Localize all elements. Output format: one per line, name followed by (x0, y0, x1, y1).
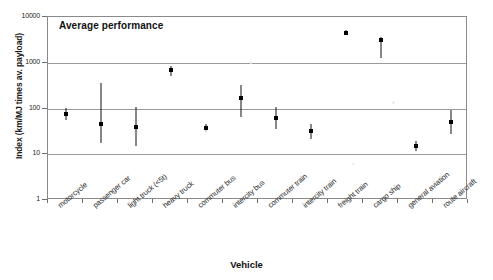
chart-title: Average performance (59, 20, 163, 31)
plot-area (47, 16, 467, 199)
data-point (223, 17, 258, 200)
x-tick-mark (432, 199, 433, 203)
data-point (83, 17, 118, 200)
data-point (258, 17, 293, 200)
data-marker (309, 129, 313, 133)
y-tick-label: 1 (0, 195, 40, 202)
y-tick-label: 1000 (0, 58, 40, 65)
data-marker (274, 116, 278, 120)
data-point (153, 17, 188, 200)
data-marker (134, 125, 138, 129)
data-point (398, 17, 433, 200)
x-tick-mark (222, 199, 223, 203)
data-marker (379, 38, 383, 42)
x-tick-mark (47, 199, 48, 203)
chart-figure: Index (km/MJ times av. payload) 10000100… (0, 0, 493, 280)
x-tick-mark (467, 199, 468, 203)
data-marker (169, 68, 173, 72)
x-tick-mark (257, 199, 258, 203)
x-tick-mark (82, 199, 83, 203)
data-point (48, 17, 83, 200)
x-axis-title: Vehicle (0, 259, 493, 270)
data-point (433, 17, 468, 200)
data-marker (99, 122, 103, 126)
x-tick-mark (397, 199, 398, 203)
scan-artifact (250, 62, 252, 64)
scan-artifact (352, 163, 354, 165)
error-bar (100, 83, 101, 143)
scan-artifact (205, 130, 207, 132)
data-point (188, 17, 223, 200)
data-marker (449, 120, 453, 124)
data-point (363, 17, 398, 200)
y-tick-label: 100 (0, 104, 40, 111)
scan-artifact (392, 101, 395, 104)
y-axis-ticks: 100001000100101 (0, 0, 45, 280)
y-tick-label: 10000 (0, 12, 40, 19)
x-tick-mark (152, 199, 153, 203)
data-marker (344, 31, 348, 35)
x-tick-mark (292, 199, 293, 203)
data-point (293, 17, 328, 200)
data-point (328, 17, 363, 200)
error-bar (240, 85, 241, 117)
x-tick-mark (187, 199, 188, 203)
data-marker (414, 144, 418, 148)
data-point (118, 17, 153, 200)
y-tick-label: 10 (0, 149, 40, 156)
x-tick-mark (362, 199, 363, 203)
x-tick-mark (117, 199, 118, 203)
data-marker (64, 112, 68, 116)
x-tick-mark (327, 199, 328, 203)
data-marker (239, 96, 243, 100)
